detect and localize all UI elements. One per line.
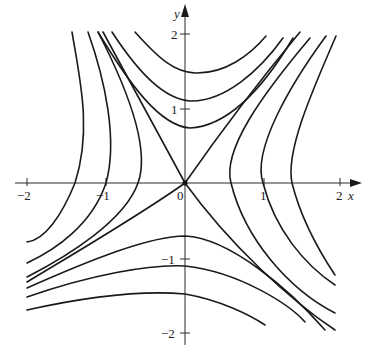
origin-label: 0	[177, 188, 184, 203]
y-axis-arrow-icon	[181, 4, 189, 17]
x-tick-label: −2	[17, 188, 31, 203]
trajectory-curves	[27, 32, 336, 330]
y-tick-label: 1	[171, 102, 178, 117]
separatrix-lower-right	[185, 183, 335, 330]
y-tick-label: 2	[171, 27, 178, 42]
x-axis-label: x	[347, 188, 354, 203]
y-axis-label: y	[172, 6, 180, 21]
left-curve-3	[27, 32, 141, 277]
y-tick-label: −1	[161, 252, 175, 267]
right-curve-3	[291, 36, 336, 275]
right-curve-2	[261, 36, 335, 285]
x-axis-arrow-icon	[350, 179, 362, 187]
top-curve-1	[135, 32, 266, 73]
bottom-curve-3	[27, 293, 265, 325]
left-curve-2	[27, 32, 111, 263]
phase-portrait-figure: −2−11221−1−2 x y 0	[0, 0, 374, 358]
saddle-point-marker	[183, 181, 188, 186]
x-tick-label: 2	[336, 188, 343, 203]
top-curve-3	[98, 32, 293, 128]
bottom-curve-2	[27, 266, 305, 322]
left-curve-1	[27, 32, 84, 242]
y-tick-label: −2	[161, 326, 175, 341]
